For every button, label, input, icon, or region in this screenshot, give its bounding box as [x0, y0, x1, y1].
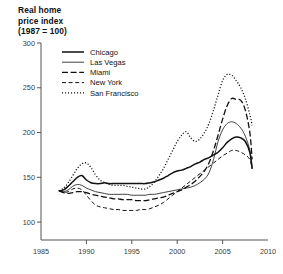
chart-container: Real home price index (1987 = 100) 10015…: [0, 0, 283, 274]
legend-label-san-francisco: San Francisco: [90, 89, 139, 98]
x-axis-tick-label: 1990: [78, 247, 94, 256]
y-axis-tick-label: 100: [23, 218, 35, 227]
y-axis-tick-label: 250: [23, 83, 35, 92]
series-line-las-vegas: [59, 122, 252, 195]
y-axis-tick-label: 200: [23, 128, 35, 137]
x-axis-tick-label: 2005: [214, 247, 230, 256]
y-axis-tick-label: 150: [23, 173, 35, 182]
x-axis-tick-label: 1985: [33, 247, 49, 256]
line-chart-plot: 100150200250300198519901995200020052010C…: [0, 0, 283, 274]
series-line-san-francisco: [59, 74, 252, 191]
x-axis-tick-label: 2000: [169, 247, 185, 256]
legend-label-chicago: Chicago: [90, 48, 118, 57]
legend-label-new-york: New York: [90, 78, 122, 87]
x-axis-tick-label: 2010: [260, 247, 276, 256]
y-axis-tick-label: 300: [23, 39, 35, 48]
legend-label-miami: Miami: [90, 68, 111, 77]
series-line-miami: [59, 98, 252, 200]
legend-label-las-vegas: Las Vegas: [90, 58, 126, 67]
x-axis-tick-label: 1995: [124, 247, 140, 256]
chart-legend: ChicagoLas VegasMiamiNew YorkSan Francis…: [62, 48, 139, 98]
